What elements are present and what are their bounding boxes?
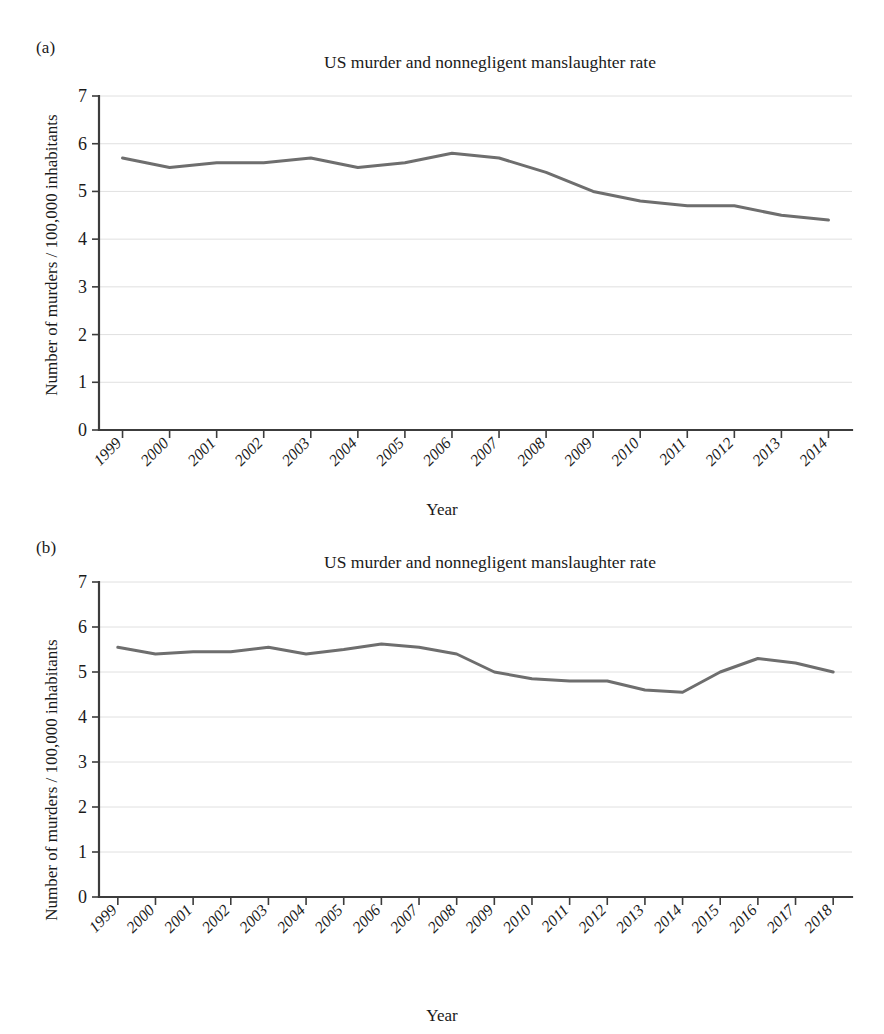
- y-tick-label: 6: [78, 617, 87, 637]
- x-tick-label: 2007: [467, 433, 502, 468]
- x-tick-label: 2000: [137, 434, 172, 469]
- x-tick-label: 2012: [702, 434, 737, 469]
- y-tick-label: 3: [78, 277, 87, 297]
- x-tick-label: 2000: [123, 901, 158, 936]
- figure: (a) US murder and nonnegligent manslaugh…: [0, 0, 884, 1034]
- x-tick-label: 2010: [608, 434, 643, 469]
- y-tick-label: 6: [78, 134, 87, 154]
- y-tick-label: 4: [78, 229, 87, 249]
- x-axis-label-a: Year: [0, 500, 884, 520]
- y-tick-label: 1: [78, 372, 87, 392]
- x-tick-label: 2016: [725, 901, 760, 936]
- x-tick-label: 2006: [419, 434, 454, 469]
- x-tick-label: 2002: [231, 434, 266, 469]
- y-tick-label: 7: [78, 572, 87, 592]
- y-tick-label: 0: [78, 420, 87, 440]
- x-tick-label: 2012: [575, 901, 610, 936]
- chart-panel-b: (b) US murder and nonnegligent manslaugh…: [0, 530, 884, 1034]
- y-tick-label: 2: [78, 797, 87, 817]
- chart-panel-a: (a) US murder and nonnegligent manslaugh…: [0, 30, 884, 530]
- x-tick-label: 2002: [198, 901, 233, 936]
- y-tick-label: 2: [78, 325, 87, 345]
- x-tick-label: 2009: [462, 901, 497, 936]
- x-tick-label: 2005: [311, 901, 346, 936]
- x-tick-label: 2001: [184, 434, 219, 469]
- x-tick-label: 2005: [372, 434, 407, 469]
- x-tick-label: 2008: [424, 901, 459, 936]
- x-tick-label: 2013: [612, 901, 647, 936]
- y-tick-label: 0: [78, 887, 87, 907]
- x-tick-label: 2003: [278, 434, 313, 469]
- y-tick-label: 7: [78, 86, 87, 106]
- y-tick-label: 5: [78, 181, 87, 201]
- x-tick-label: 2017: [763, 900, 798, 935]
- x-tick-label: 2013: [749, 434, 784, 469]
- y-tick-label: 1: [78, 842, 87, 862]
- series-line: [123, 153, 829, 220]
- x-tick-label: 2011: [538, 901, 572, 935]
- y-tick-label: 5: [78, 662, 87, 682]
- plot-area-a: 0123456719992000200120022003200420052006…: [0, 30, 884, 490]
- x-tick-label: 2004: [325, 434, 360, 469]
- x-tick-label: 2007: [386, 900, 421, 935]
- series-line: [118, 644, 833, 692]
- x-tick-label: 2006: [349, 901, 384, 936]
- y-tick-label: 3: [78, 752, 87, 772]
- x-tick-label: 2014: [796, 434, 831, 469]
- x-tick-label: 2011: [656, 434, 690, 468]
- x-tick-label: 2003: [236, 901, 271, 936]
- x-tick-label: 2015: [688, 901, 723, 936]
- x-tick-label: 2009: [561, 434, 596, 469]
- x-tick-label: 2008: [514, 434, 549, 469]
- x-tick-label: 1999: [90, 434, 125, 469]
- x-tick-label: 2004: [274, 901, 309, 936]
- x-axis-label-b: Year: [0, 1006, 884, 1026]
- x-tick-label: 2010: [499, 901, 534, 936]
- x-tick-label: 2018: [801, 901, 836, 936]
- x-tick-label: 1999: [85, 901, 120, 936]
- x-tick-label: 2014: [650, 901, 685, 936]
- plot-area-b: 0123456719992000200120022003200420052006…: [0, 530, 884, 996]
- x-tick-label: 2001: [161, 901, 196, 936]
- y-tick-label: 4: [78, 707, 87, 727]
